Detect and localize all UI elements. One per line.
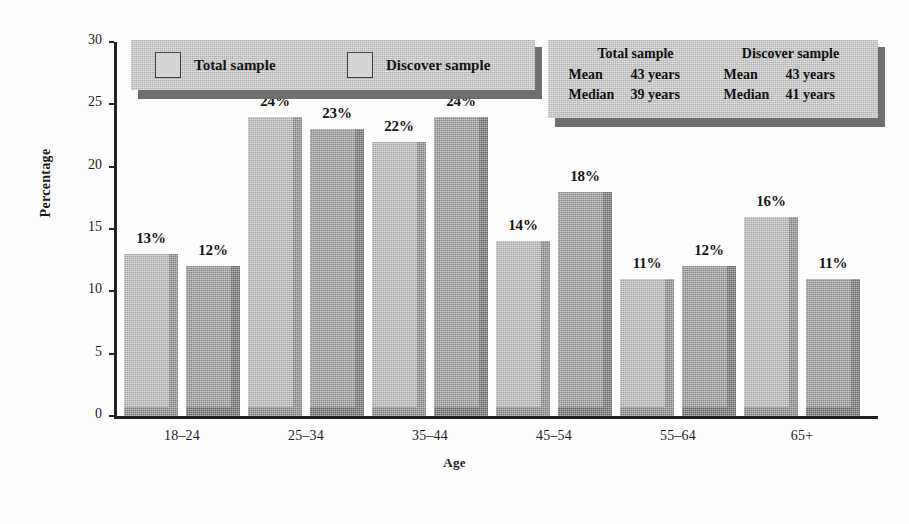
y-tick-mark-30 (109, 41, 114, 43)
bar-face (434, 117, 479, 416)
y-tick-mark-25 (109, 103, 114, 105)
bar-base (186, 407, 240, 416)
y-tick-label-30: 30 (68, 32, 102, 48)
legend-swatch-discover-sample (347, 52, 373, 78)
bar-4554-discover[interactable] (558, 192, 612, 416)
bar-2534-discover[interactable] (310, 129, 364, 416)
bar-face (620, 279, 665, 416)
y-tick-mark-20 (109, 166, 114, 168)
stats-key-discover-mean: Mean (724, 65, 786, 85)
stats-heading-discover-sample: Discover sample (742, 46, 839, 62)
y-tick-mark-10 (109, 290, 114, 292)
bar-edge (231, 266, 240, 416)
x-tick-label-2534: 25–34 (238, 428, 374, 444)
bar-value-label: 14% (488, 217, 558, 234)
x-tick-label-5564: 55–64 (610, 428, 746, 444)
x-tick-label-4554: 45–54 (486, 428, 622, 444)
stats-key-total-median: Median (569, 85, 631, 105)
bar-base (496, 407, 550, 416)
y-tick-label-5: 5 (68, 344, 102, 360)
bar-face (372, 142, 417, 416)
stats-row-discover-mean: Mean 43 years (713, 65, 868, 85)
x-tick-label-3544: 35–44 (362, 428, 498, 444)
bar-base (806, 407, 860, 416)
bar-value-label: 11% (612, 255, 682, 272)
stats-key-total-mean: Mean (569, 65, 631, 85)
legend-shadow-right (535, 47, 542, 99)
legend-swatch-total-sample (155, 52, 181, 78)
bar-5564-discover[interactable] (682, 266, 736, 416)
bar-face (682, 266, 727, 416)
bar-value-label: 18% (550, 168, 620, 185)
bar-value-label: 16% (736, 193, 806, 210)
bar-edge (293, 117, 302, 416)
stats-value-total-median: 39 years (631, 85, 703, 105)
bar-chart: Percentage Age 051015202530 13%12%18–242… (0, 0, 909, 524)
stats-shadow-right (878, 47, 885, 127)
y-tick-label-10: 10 (68, 281, 102, 297)
x-tick-label-1824: 18–24 (114, 428, 250, 444)
legend-item-discover-sample[interactable]: Discover sample (347, 52, 490, 78)
bar-face (310, 129, 355, 416)
bar-edge (541, 241, 550, 416)
stats-shadow-bottom (555, 118, 885, 127)
stats-row-total-mean: Mean 43 years (558, 65, 713, 85)
stats-key-discover-median: Median (724, 85, 786, 105)
bar-face (558, 192, 603, 416)
bar-base (434, 407, 488, 416)
bar-base (744, 407, 798, 416)
stats-column-total-sample: Total sample Mean 43 years Median 39 yea… (558, 46, 713, 118)
legend-item-total-sample[interactable]: Total sample (155, 52, 276, 78)
bar-1824-discover[interactable] (186, 266, 240, 416)
bar-base (124, 407, 178, 416)
x-axis-title: Age (0, 455, 909, 471)
x-tick-label-65+: 65+ (734, 428, 870, 444)
y-axis-title: Percentage (38, 113, 54, 253)
legend-label-discover-sample: Discover sample (386, 57, 490, 74)
bar-4554-total[interactable] (496, 241, 550, 416)
bar-3544-total[interactable] (372, 142, 426, 416)
stats-column-discover-sample: Discover sample Mean 43 years Median 41 … (713, 46, 868, 118)
bar-edge (603, 192, 612, 416)
bar-2534-total[interactable] (248, 117, 302, 416)
bar-edge (665, 279, 674, 416)
bar-value-label: 12% (674, 242, 744, 259)
bar-5564-total[interactable] (620, 279, 674, 416)
bar-base (248, 407, 302, 416)
bar-face (744, 217, 789, 416)
bar-edge (851, 279, 860, 416)
bar-face (248, 117, 293, 416)
bar-edge (789, 217, 798, 416)
bar-base (620, 407, 674, 416)
bar-base (310, 407, 364, 416)
stats-value-discover-mean: 43 years (786, 65, 858, 85)
bar-base (558, 407, 612, 416)
stats-panel: Total sample Mean 43 years Median 39 yea… (548, 40, 878, 118)
y-tick-label-0: 0 (68, 406, 102, 422)
y-tick-label-20: 20 (68, 157, 102, 173)
bar-65+-total[interactable] (744, 217, 798, 416)
stats-value-total-mean: 43 years (631, 65, 703, 85)
bar-65+-discover[interactable] (806, 279, 860, 416)
bar-edge (479, 117, 488, 416)
bar-value-label: 12% (178, 242, 248, 259)
bar-face (186, 266, 231, 416)
bar-value-label: 22% (364, 118, 434, 135)
stats-value-discover-median: 41 years (786, 85, 858, 105)
y-tick-label-25: 25 (68, 94, 102, 110)
bar-face (496, 241, 541, 416)
stats-row-total-median: Median 39 years (558, 85, 713, 105)
bar-value-label: 23% (302, 105, 372, 122)
bar-edge (417, 142, 426, 416)
y-tick-mark-5 (109, 353, 114, 355)
bar-value-label: 13% (116, 230, 186, 247)
bar-base (372, 407, 426, 416)
bar-value-label: 11% (798, 255, 868, 272)
legend-shadow-bottom (138, 90, 542, 99)
bar-3544-discover[interactable] (434, 117, 488, 416)
y-tick-mark-0 (109, 415, 114, 417)
bar-face (124, 254, 169, 416)
stats-heading-total-sample: Total sample (597, 46, 673, 62)
bar-1824-total[interactable] (124, 254, 178, 416)
y-tick-mark-15 (109, 228, 114, 230)
